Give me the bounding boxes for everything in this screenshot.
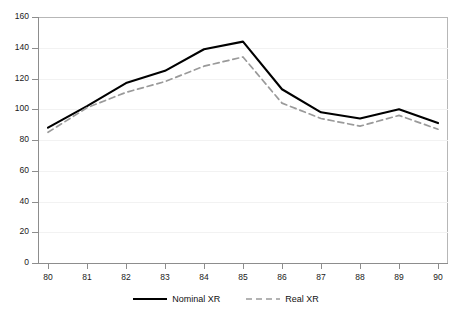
y-axis-tick: [32, 140, 38, 141]
y-gridline: [39, 202, 448, 203]
solid-black-line-swatch: [133, 295, 167, 303]
y-gridline: [39, 109, 448, 110]
x-axis-tick: [48, 264, 49, 269]
y-axis-label: 100: [3, 104, 29, 113]
y-axis-label: 0: [3, 258, 29, 267]
legend-item-nominal-xr: Nominal XR: [133, 294, 220, 304]
legend-label-real-xr: Real XR: [285, 294, 319, 304]
y-gridline: [39, 171, 448, 172]
x-axis-tick: [243, 264, 244, 269]
y-axis-tick: [32, 232, 38, 233]
y-gridline: [39, 79, 448, 80]
legend-label-nominal-xr: Nominal XR: [172, 294, 220, 304]
x-axis-tick: [165, 264, 166, 269]
y-axis-tick: [32, 171, 38, 172]
x-axis-tick: [360, 264, 361, 269]
x-axis-tick: [126, 264, 127, 269]
chart-legend: Nominal XR Real XR: [0, 294, 452, 304]
y-gridline: [39, 140, 448, 141]
legend-item-real-xr: Real XR: [246, 294, 319, 304]
x-axis-tick: [399, 264, 400, 269]
y-gridline: [39, 232, 448, 233]
y-axis-tick: [32, 48, 38, 49]
dashed-gray-line-swatch: [246, 295, 280, 303]
x-axis-tick: [321, 264, 322, 269]
x-axis-label: 89: [386, 272, 412, 282]
x-axis-tick: [87, 264, 88, 269]
x-axis-label: 88: [347, 272, 373, 282]
y-axis-label: 20: [3, 227, 29, 236]
y-axis-label: 40: [3, 197, 29, 206]
y-axis-tick: [32, 202, 38, 203]
y-axis-label: 80: [3, 135, 29, 144]
x-axis-label: 87: [308, 272, 334, 282]
line-chart: 020406080100120140160 808182838485868788…: [0, 0, 452, 318]
x-axis-label: 82: [113, 272, 139, 282]
x-axis-tick: [438, 264, 439, 269]
y-gridline: [39, 48, 448, 49]
y-axis-label: 60: [3, 166, 29, 175]
y-axis-label: 120: [3, 74, 29, 83]
y-axis-tick: [32, 17, 38, 18]
x-axis-label: 80: [35, 272, 61, 282]
x-axis-tick: [204, 264, 205, 269]
x-axis-label: 85: [230, 272, 256, 282]
y-axis-tick: [32, 109, 38, 110]
y-axis-label: 160: [3, 12, 29, 21]
x-axis-label: 83: [152, 272, 178, 282]
y-axis-label: 140: [3, 43, 29, 52]
x-axis-label: 86: [269, 272, 295, 282]
x-axis-label: 84: [191, 272, 217, 282]
x-axis-tick: [282, 264, 283, 269]
y-axis-tick: [32, 263, 38, 264]
y-axis-tick: [32, 79, 38, 80]
x-axis-label: 90: [425, 272, 451, 282]
x-axis-label: 81: [74, 272, 100, 282]
